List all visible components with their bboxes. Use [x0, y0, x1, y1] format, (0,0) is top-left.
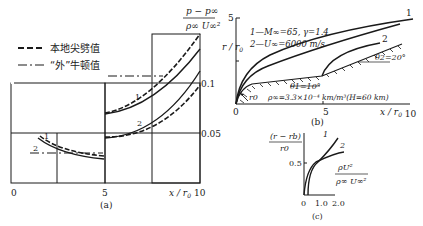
ylabel-denominator: ρ∞ U∞²: [185, 21, 221, 31]
label-1-skirt: 1: [135, 93, 140, 102]
panel-a: 本地尖劈值 “外”牛顿值 p − p∞ ρ∞ U∞² 0.1 0.05 0 5 …: [11, 6, 221, 210]
c-ytick-0.5: 0.5: [289, 159, 302, 168]
caption-b: (b): [311, 117, 324, 127]
xtick-0: 0: [11, 188, 17, 198]
legend-dashed-label: 本地尖劈值: [50, 42, 100, 54]
b-ylabel: r / r0: [222, 42, 243, 53]
figure: 本地尖劈值 “外”牛顿值 p − p∞ ρ∞ U∞² 0.1 0.05 0 5 …: [0, 0, 423, 226]
c-xlabel-num: ρU²: [337, 163, 353, 172]
c-ylabel-num: (r − rb): [270, 132, 301, 141]
c-xtick-2: 2.0: [332, 199, 345, 208]
b-xtick-5: 5: [323, 107, 329, 117]
c-ylabel-den: r0: [280, 144, 289, 153]
xtick-5: 5: [102, 188, 108, 198]
shock-2-skirt: [322, 43, 380, 76]
c-curve-2: [304, 152, 344, 195]
label-2-skirt: 2: [137, 119, 142, 128]
theta2-label: θ2=20°: [375, 53, 406, 62]
c-label-2: 2: [339, 141, 345, 150]
legend-dashdot-label: “外”牛顿值: [50, 59, 100, 71]
c-xlabel-den: ρ∞ U∞²: [335, 177, 367, 186]
b-legend-1: 1—M∞=65, γ=1.4: [250, 27, 329, 37]
panel-b: 5 r / r0 0 5 x / r0 10 (b) 1—M∞=65, γ=1.…: [222, 8, 417, 127]
b-xlabel: x / r0 10: [380, 107, 417, 119]
r0-label: r0: [249, 93, 258, 102]
frame-top: [152, 34, 200, 183]
panel-c: (r − rb) r0 0.5 1 2 ρU² ρ∞ U∞² 0 1.0 2.0…: [269, 130, 368, 221]
ytick-0.1: 0.1: [201, 79, 215, 89]
theta1-label: θ1=10°: [290, 82, 321, 91]
b-xtick-0: 0: [233, 107, 239, 117]
c-xtick-0: 0: [301, 199, 306, 208]
rho-label: ρ∞=3.3×10⁻⁴ km/m³(H=60 km): [267, 93, 389, 102]
xtick-10: 10: [194, 188, 206, 198]
label-2-cone: 2: [33, 144, 38, 153]
ytick-0.05: 0.05: [201, 129, 221, 139]
xlabel: x / r0: [169, 188, 191, 199]
c-label-1: 1: [323, 130, 328, 139]
b-ytick-5: 5: [228, 13, 234, 23]
caption-a: (a): [100, 200, 112, 210]
b-label-1: 1: [406, 8, 412, 18]
caption-c: (c): [312, 212, 323, 221]
ylabel-numerator: p − p∞: [186, 6, 218, 16]
b-label-2: 2: [382, 34, 388, 44]
label-1-cone: 1: [44, 132, 49, 141]
c-xtick-1: 1.0: [315, 199, 328, 208]
